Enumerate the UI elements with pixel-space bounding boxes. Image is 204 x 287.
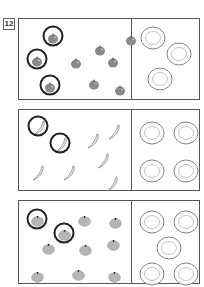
plate-area: [132, 201, 199, 283]
plate-icon: [140, 26, 166, 54]
orange-icon: [108, 269, 121, 287]
banana-icon: [96, 153, 110, 173]
orange-icon: [109, 215, 122, 233]
plate-icon: [139, 210, 165, 238]
apple-icon: [88, 76, 100, 94]
plate-icon: [173, 121, 199, 149]
plate-icon: [139, 262, 165, 287]
circle-mark-icon: [27, 115, 49, 141]
circle-mark-icon: [53, 222, 75, 248]
plate-icon: [173, 262, 199, 287]
plate-icon: [166, 42, 192, 70]
panel-apples: [18, 18, 200, 100]
plate-icon: [139, 159, 165, 187]
plate-icon: [139, 121, 165, 149]
orange-icon: [42, 241, 55, 259]
banana-icon: [86, 133, 100, 153]
orange-icon: [31, 269, 44, 287]
orange-icon: [79, 242, 92, 260]
apple-icon: [107, 54, 119, 72]
orange-icon: [107, 237, 120, 255]
apple-icon: [70, 55, 82, 73]
orange-icon: [78, 213, 91, 231]
exercise-number-badge: 12: [3, 18, 15, 30]
plate-icon: [173, 159, 199, 187]
banana-icon: [105, 176, 119, 196]
plate-area: [132, 19, 199, 99]
apple-icon: [94, 42, 106, 60]
plate-icon: [156, 236, 182, 264]
orange-icon: [72, 267, 85, 285]
circle-mark-icon: [26, 208, 48, 234]
circle-mark-icon: [49, 132, 71, 158]
panel-oranges: [18, 200, 200, 284]
apple-icon: [114, 82, 126, 100]
panel-bananas: [18, 109, 200, 191]
plate-area: [132, 110, 199, 190]
circle-mark-icon: [39, 74, 61, 100]
banana-icon: [31, 165, 45, 185]
plate-icon: [173, 210, 199, 238]
banana-icon: [62, 165, 76, 185]
circle-mark-icon: [26, 48, 48, 74]
banana-icon: [107, 124, 121, 144]
plate-icon: [147, 67, 173, 95]
